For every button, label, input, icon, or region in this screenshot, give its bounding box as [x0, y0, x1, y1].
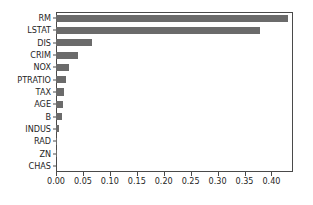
y-tick-label-age: AGE: [0, 100, 51, 108]
y-tick-mark: [53, 128, 57, 129]
bar-fill: [56, 64, 69, 71]
bar-crim: [56, 52, 78, 59]
x-tick-mark: [218, 172, 219, 176]
y-tick-label-rm: RM: [0, 14, 51, 22]
bar-tax: [56, 88, 64, 95]
y-tick-label-rad: RAD: [0, 137, 51, 145]
bar-fill: [56, 138, 57, 145]
bar-fill: [56, 52, 78, 59]
x-tick-mark: [191, 172, 192, 176]
bar-b: [56, 113, 62, 120]
bar-ptratio: [56, 76, 66, 83]
y-tick-mark: [53, 116, 57, 117]
bar-indus: [56, 125, 59, 132]
y-tick-label-lstat: LSTAT: [0, 26, 51, 34]
y-tick-label-crim: CRIM: [0, 51, 51, 59]
bar-rad: [56, 138, 57, 145]
bar-fill: [56, 39, 92, 46]
bar-fill: [56, 27, 260, 34]
y-tick-mark: [53, 55, 57, 56]
y-tick-label-b: B: [0, 113, 51, 121]
y-tick-label-zn: ZN: [0, 150, 51, 158]
x-tick-mark: [110, 172, 111, 176]
x-tick-mark: [56, 172, 57, 176]
y-tick-label-dis: DIS: [0, 39, 51, 47]
bar-fill: [56, 15, 288, 22]
y-tick-mark: [53, 104, 57, 105]
y-tick-label-ptratio: PTRATIO: [0, 76, 51, 84]
x-tick-mark: [271, 172, 272, 176]
x-tick-mark: [164, 172, 165, 176]
y-tick-mark: [53, 42, 57, 43]
y-tick-mark: [53, 67, 57, 68]
bar-fill: [56, 88, 64, 95]
bar-age: [56, 101, 63, 108]
y-tick-mark: [53, 165, 57, 166]
x-tick-label: 0.40: [251, 177, 291, 186]
bar-rm: [56, 15, 288, 22]
y-tick-mark: [53, 18, 57, 19]
bar-chart-figure: RMLSTATDISCRIMNOXPTRATIOTAXAGEBINDUSRADZ…: [0, 0, 313, 205]
y-tick-mark: [53, 30, 57, 31]
bar-fill: [56, 113, 62, 120]
y-tick-label-chas: CHAS: [0, 162, 51, 170]
y-tick-mark: [53, 141, 57, 142]
plot-area: [56, 12, 293, 172]
bar-fill: [56, 125, 59, 132]
bar-dis: [56, 39, 92, 46]
y-tick-label-tax: TAX: [0, 88, 51, 96]
x-tick-mark: [83, 172, 84, 176]
y-tick-label-nox: NOX: [0, 63, 51, 71]
bar-fill: [56, 101, 63, 108]
x-tick-mark: [245, 172, 246, 176]
y-tick-label-indus: INDUS: [0, 125, 51, 133]
y-tick-mark: [53, 92, 57, 93]
x-tick-mark: [137, 172, 138, 176]
y-tick-mark: [53, 153, 57, 154]
bar-lstat: [56, 27, 260, 34]
bar-fill: [56, 76, 66, 83]
bar-nox: [56, 64, 69, 71]
y-tick-mark: [53, 79, 57, 80]
